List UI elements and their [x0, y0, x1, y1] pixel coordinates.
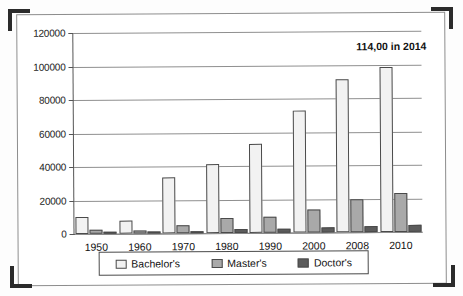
legend-label: Doctor's [314, 256, 352, 268]
bar-masters-2010[interactable] [394, 193, 407, 232]
y-tick-0 [70, 234, 75, 235]
corner-bracket-top-left [8, 9, 30, 31]
doctors-swatch [298, 258, 309, 267]
x-axis-label-2010: 2010 [389, 239, 412, 251]
legend-item-masters[interactable]: Master's [211, 257, 266, 269]
bar-masters-1970[interactable] [177, 225, 190, 233]
corner-bracket-top-right [431, 7, 453, 29]
scanned-page: 114,00 in 2014 0200004000060000800001000… [0, 0, 463, 296]
bar-bachelors-1960[interactable] [119, 221, 132, 234]
bar-doctors-1990[interactable] [278, 228, 291, 232]
bar-doctors-2008[interactable] [365, 226, 378, 232]
legend-label: Master's [227, 257, 266, 269]
legend-item-doctors[interactable]: Doctor's [298, 256, 352, 268]
y-axis-label: 100000 [33, 61, 65, 72]
chart-legend: Bachelor'sMaster'sDoctor's [99, 250, 369, 276]
y-axis-label: 20000 [39, 195, 66, 206]
bar-group-1990: 1990 [247, 32, 292, 233]
bar-group-1980: 1980 [204, 32, 249, 233]
bar-bachelors-2000[interactable] [293, 110, 307, 232]
bar-doctors-1980[interactable] [234, 229, 247, 233]
bar-group-1970: 1970 [160, 32, 205, 233]
bar-group-2010: 2010 [378, 31, 423, 232]
y-axis-label: 120000 [33, 28, 65, 39]
bar-doctors-1950[interactable] [104, 232, 117, 234]
bar-group-2008: 2008 [334, 31, 379, 232]
bar-masters-2000[interactable] [307, 210, 320, 233]
chart-annotation: 114,00 in 2014 [356, 40, 426, 52]
bar-doctors-2010[interactable] [408, 225, 421, 232]
legend-item-bachelors[interactable]: Bachelor's [115, 257, 180, 269]
bar-doctors-2000[interactable] [321, 227, 334, 232]
bar-group-1960: 1960 [117, 32, 162, 233]
masters-swatch [211, 259, 222, 268]
bar-doctors-1960[interactable] [147, 231, 160, 233]
y-axis-label: 0 [61, 229, 66, 240]
bar-bachelors-1990[interactable] [249, 144, 263, 233]
bar-masters-1980[interactable] [220, 218, 233, 233]
bachelors-swatch [115, 259, 126, 268]
y-axis-label: 80000 [39, 95, 66, 106]
bar-masters-1950[interactable] [90, 230, 103, 234]
bar-bachelors-1980[interactable] [206, 164, 219, 233]
bar-group-2000: 2000 [291, 31, 336, 232]
y-axis-label: 40000 [39, 162, 66, 173]
legend-label: Bachelor's [131, 257, 180, 269]
corner-bracket-bottom-left [10, 266, 32, 288]
bar-masters-2008[interactable] [351, 200, 364, 233]
bar-bachelors-1950[interactable] [76, 217, 89, 234]
bar-group-1950: 1950 [73, 33, 118, 234]
plot-area: 020000400006000080000100000120000 195019… [73, 31, 422, 234]
chart-frame: 114,00 in 2014 0200004000060000800001000… [16, 12, 447, 287]
bar-doctors-1970[interactable] [191, 231, 204, 233]
bar-bachelors-2008[interactable] [336, 79, 350, 232]
bar-masters-1960[interactable] [133, 231, 146, 234]
bar-bachelors-1970[interactable] [162, 177, 175, 233]
corner-bracket-bottom-right [433, 265, 455, 287]
y-axis-label: 60000 [39, 128, 66, 139]
bar-groups: 19501960197019801990200020082010 [73, 31, 422, 234]
bar-bachelors-2010[interactable] [379, 67, 393, 232]
bar-masters-1990[interactable] [264, 217, 277, 233]
